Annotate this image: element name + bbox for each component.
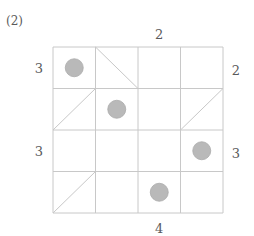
circle-marker [65, 59, 83, 77]
diagonal-mirror-slash [53, 172, 96, 214]
clue-left: 3 [35, 61, 43, 74]
clue-bottom: 4 [155, 222, 163, 235]
circle-marker [108, 100, 126, 118]
clue-right: 3 [232, 146, 240, 159]
puzzle-diagram: (2) 243323 [0, 0, 254, 236]
clue-left: 3 [35, 144, 43, 157]
diagonal-mirror-slash [181, 89, 224, 131]
circle-marker [150, 183, 168, 201]
circle-marker [193, 142, 211, 160]
puzzle-grid [0, 0, 254, 236]
diagonal-mirror-backslash [96, 47, 139, 89]
clue-top: 2 [155, 28, 163, 41]
diagonal-mirror-slash [53, 89, 96, 131]
clue-right: 2 [232, 63, 240, 76]
